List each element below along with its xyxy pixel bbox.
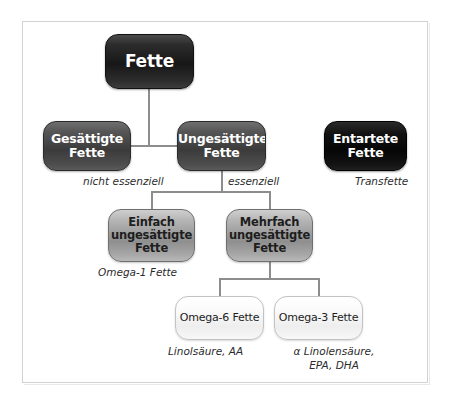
node-entartete-fette-line2: Fette xyxy=(348,145,384,160)
node-entartete-fette-line1: Entartete xyxy=(333,131,398,146)
connector-omega6-down xyxy=(219,278,221,297)
node-entartete-fette-label: EntarteteFette xyxy=(325,132,406,160)
node-entartete-fette[interactable]: EntarteteFette xyxy=(324,121,407,171)
connector-level4-bar xyxy=(219,278,320,280)
connector-poly-stem xyxy=(269,262,271,279)
connector-root-down xyxy=(148,88,150,146)
caption-omega-1-fette: Omega-1 Fette xyxy=(98,266,177,280)
node-omega-3-fette-label: Omega-3 Fette xyxy=(275,312,362,324)
connector-mono-down xyxy=(151,191,153,209)
node-omega-6-fette[interactable]: Omega-6 Fette xyxy=(175,296,264,340)
node-omega-6-fette-label: Omega-6 Fette xyxy=(176,312,263,324)
connector-unsaturated-down xyxy=(221,170,223,192)
caption-transfette: Transfette xyxy=(355,175,408,189)
node-einfach-ungesaettigte-fette[interactable]: EinfachungesättigteFette xyxy=(108,209,195,262)
node-ungesaettigte-fette-label: UngesättigteFette xyxy=(177,132,266,160)
node-ungesaettigte-fette-line2: Fette xyxy=(204,145,240,160)
caption-essenziell: essenziell xyxy=(228,175,279,189)
node-mehrfach-ungesaettigte-fette-label: MehrfachungesättigteFette xyxy=(226,216,313,255)
node-ungesaettigte-fette[interactable]: UngesättigteFette xyxy=(177,121,266,171)
node-fette[interactable]: Fette xyxy=(105,34,194,89)
node-gesaettigte-fette-label: GesättigteFette xyxy=(44,132,130,160)
caption-omega3-line1: α Linolensäure, xyxy=(281,345,387,359)
node-fette-label: Fette xyxy=(106,52,193,71)
connector-level2-bar xyxy=(130,145,178,147)
node-gesaettigte-fette[interactable]: GesättigteFette xyxy=(43,121,131,171)
node-mono-line3: Fette xyxy=(135,241,168,255)
caption-omega3-line2: EPA, DHA xyxy=(281,359,387,373)
node-poly-line3: Fette xyxy=(253,241,286,255)
node-gesaettigte-fette-line1: Gesättigte xyxy=(51,131,123,146)
node-einfach-ungesaettigte-fette-label: EinfachungesättigteFette xyxy=(108,216,195,255)
caption-linolsaeure-aa: Linolsäure, AA xyxy=(168,345,243,359)
node-gesaettigte-fette-line2: Fette xyxy=(69,145,105,160)
connector-omega3-down xyxy=(318,278,320,297)
node-omega-3-fette[interactable]: Omega-3 Fette xyxy=(274,296,363,340)
connector-poly-down xyxy=(269,191,271,209)
caption-nicht-essenziell: nicht essenziell xyxy=(83,175,164,189)
diagram-canvas: Fette GesättigteFette UngesättigteFette … xyxy=(0,0,453,409)
node-ungesaettigte-fette-line1: Ungesättigte xyxy=(178,131,266,146)
node-mehrfach-ungesaettigte-fette[interactable]: MehrfachungesättigteFette xyxy=(226,209,313,262)
connector-level3-bar xyxy=(151,191,271,193)
caption-alpha-linolensaeure: α Linolensäure, EPA, DHA xyxy=(281,345,387,372)
